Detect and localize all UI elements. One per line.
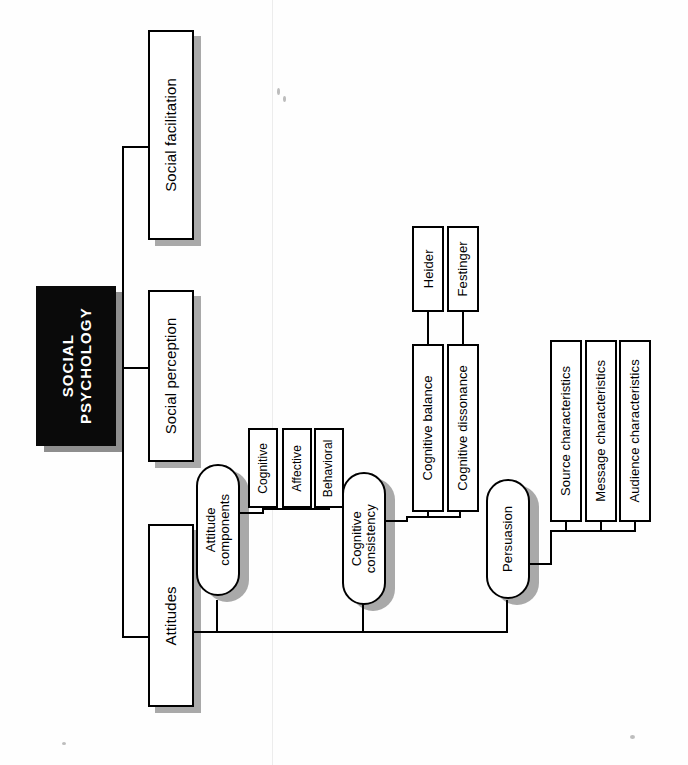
scan-artifact-speck — [630, 735, 635, 739]
node-heider[interactable]: Heider — [412, 226, 444, 312]
scan-artifact-speck — [283, 96, 286, 102]
node-cognitive-balance[interactable]: Cognitive balance — [412, 344, 444, 512]
node-source-characteristics[interactable]: Source characteristics — [550, 340, 582, 522]
node-attitudes[interactable]: Attitudes — [148, 524, 194, 707]
node-cognitive[interactable]: Cognitive — [248, 428, 278, 508]
node-label: Cognitive balance — [421, 375, 435, 480]
node-festinger[interactable]: Festinger — [447, 226, 479, 312]
node-persuasion[interactable]: Persuasion — [486, 479, 530, 599]
connector-bus-to-attitude-components — [216, 600, 218, 633]
connector-level1-spine — [122, 146, 124, 638]
node-affective[interactable]: Affective — [282, 428, 312, 508]
node-label: Social perception — [163, 318, 179, 435]
connector-spine-to-attitudes — [122, 636, 148, 638]
node-label: Source characteristics — [559, 366, 573, 496]
node-label: Behavioral — [323, 439, 336, 497]
scan-artifact-speck — [277, 88, 280, 95]
node-cognitive-consistency[interactable]: Cognitive consistency — [342, 472, 386, 605]
connector-cognitive-consistency-bus — [406, 516, 461, 518]
node-label: Cognitive consistency — [350, 504, 378, 573]
connector-persuasion-stub — [530, 563, 552, 565]
node-label: Persuasion — [501, 506, 515, 572]
diagram-canvas: SOCIAL PSYCHOLOGY Social facilitation So… — [0, 0, 688, 765]
node-label: Festinger — [456, 241, 470, 296]
node-label: Heider — [421, 250, 435, 289]
node-attitude-components[interactable]: Attitude components — [196, 464, 240, 596]
node-message-characteristics[interactable]: Message characteristics — [585, 340, 617, 522]
node-label: Social facilitation — [163, 78, 179, 192]
connector-bus-to-persuasion — [506, 600, 508, 633]
connector-spine-to-social-facilitation — [122, 146, 148, 148]
connector-attitudes-bus — [192, 631, 508, 633]
node-label: Affective — [291, 445, 304, 492]
node-label: SOCIAL PSYCHOLOGY — [58, 308, 93, 425]
node-social-facilitation[interactable]: Social facilitation — [148, 30, 194, 240]
node-social-perception[interactable]: Social perception — [148, 290, 194, 462]
connector-spine-to-social-perception — [122, 367, 148, 369]
scan-artifact-speck — [62, 742, 66, 745]
node-cognitive-dissonance[interactable]: Cognitive dissonance — [447, 344, 479, 512]
node-label: Audience characteristics — [628, 359, 642, 502]
node-label: Cognitive dissonance — [456, 365, 470, 491]
connector-attitude-components-stub — [240, 512, 264, 514]
node-label: Message characteristics — [594, 360, 608, 502]
connector-balance-to-heider — [427, 310, 429, 346]
connector-persuasion-bus — [550, 530, 636, 532]
node-label: Attitudes — [163, 586, 179, 645]
node-label: Cognitive — [257, 443, 270, 494]
node-social-psychology[interactable]: SOCIAL PSYCHOLOGY — [36, 286, 116, 446]
scan-artifact-line — [272, 0, 273, 765]
connector-persuasion-riser — [550, 530, 552, 565]
connector-dissonance-to-festinger — [462, 310, 464, 346]
node-audience-characteristics[interactable]: Audience characteristics — [619, 340, 651, 522]
node-label: Attitude components — [204, 494, 232, 566]
connector-cognitive-consistency-stub — [386, 520, 408, 522]
node-behavioral[interactable]: Behavioral — [314, 428, 344, 508]
